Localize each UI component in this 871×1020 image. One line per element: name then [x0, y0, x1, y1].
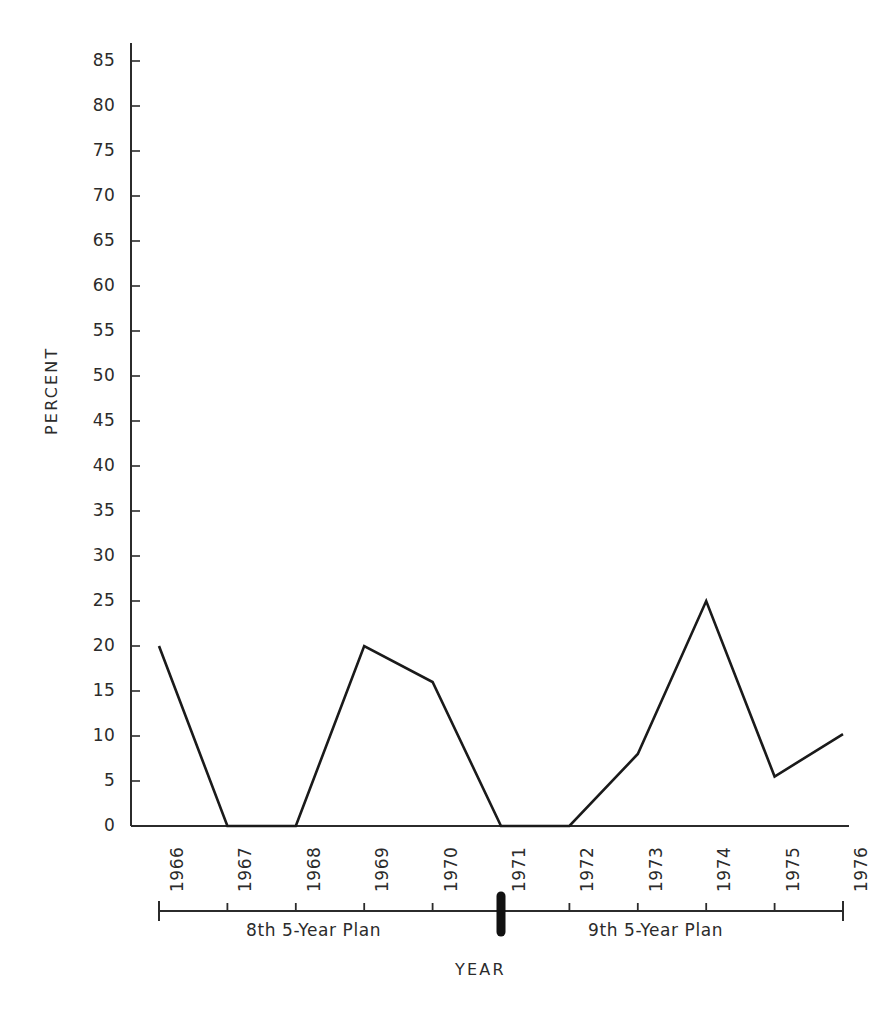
- y-axis-tick-label: 35: [79, 500, 115, 520]
- x-axis-year-label: 1973: [646, 847, 666, 892]
- x-axis-year-label: 1972: [577, 847, 597, 892]
- y-axis-tick-label: 20: [79, 635, 115, 655]
- y-axis-ticks: [131, 61, 140, 826]
- y-axis-tick-label: 65: [79, 230, 115, 250]
- y-axis-tick-label: 15: [79, 680, 115, 700]
- plan-label-8th: 8th 5-Year Plan: [246, 920, 381, 940]
- x-axis-year-label: 1976: [851, 847, 871, 892]
- x-axis-year-label: 1975: [783, 847, 803, 892]
- x-axis-year-label: 1970: [441, 847, 461, 892]
- y-axis-tick-label: 25: [79, 590, 115, 610]
- x-axis-year-label: 1969: [372, 847, 392, 892]
- plan-label-9th: 9th 5-Year Plan: [588, 920, 723, 940]
- y-axis-tick-label: 60: [79, 275, 115, 295]
- y-axis-title: PERCENT: [42, 346, 61, 435]
- y-axis-tick-label: 75: [79, 140, 115, 160]
- x-axis-year-label: 1968: [304, 847, 324, 892]
- y-axis-tick-label: 5: [79, 770, 115, 790]
- y-axis-tick-label: 80: [79, 95, 115, 115]
- y-axis-tick-label: 55: [79, 320, 115, 340]
- x-axis-year-label: 1971: [509, 847, 529, 892]
- y-axis-tick-label: 40: [79, 455, 115, 475]
- y-axis-tick-label: 10: [79, 725, 115, 745]
- y-axis-tick-label: 85: [79, 50, 115, 70]
- data-series-line: [159, 601, 843, 826]
- x-axis-year-label: 1966: [167, 847, 187, 892]
- y-axis-tick-label: 45: [79, 410, 115, 430]
- x-axis-title: YEAR: [455, 960, 506, 979]
- y-axis-tick-label: 0: [79, 815, 115, 835]
- x-axis-year-label: 1974: [714, 847, 734, 892]
- y-axis-tick-label: 50: [79, 365, 115, 385]
- y-axis-tick-label: 70: [79, 185, 115, 205]
- x-axis-year-label: 1967: [235, 847, 255, 892]
- y-axis-tick-label: 30: [79, 545, 115, 565]
